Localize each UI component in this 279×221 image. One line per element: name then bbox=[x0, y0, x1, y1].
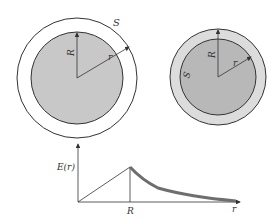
x-axis-label: r bbox=[232, 204, 237, 214]
left-sphere-diagram: R r S bbox=[17, 17, 137, 138]
y-axis-label: E(r) bbox=[56, 162, 75, 172]
inside-field-line bbox=[78, 167, 130, 202]
label-R: R bbox=[66, 49, 76, 57]
label-S: S bbox=[113, 17, 120, 28]
field-graph: E(r) R r bbox=[56, 144, 240, 216]
label-R: R bbox=[207, 51, 217, 59]
label-r: r bbox=[108, 52, 113, 62]
x-tick-R: R bbox=[126, 206, 134, 216]
outside-field-curve bbox=[130, 167, 236, 201]
figure: R r S R r S E(r) R r bbox=[0, 0, 279, 221]
label-r: r bbox=[233, 58, 238, 68]
right-sphere-diagram: R r S bbox=[170, 29, 266, 125]
